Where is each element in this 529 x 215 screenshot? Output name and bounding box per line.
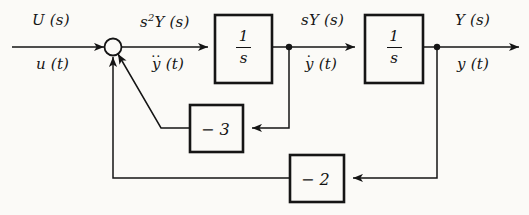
- input-time-label: u (t): [36, 57, 69, 72]
- block-diagram-figure: U (s) u (t) s2Y (s) ··y (t) 1 s sY (s) ·…: [0, 0, 529, 215]
- gain-minus-3-label: − 3: [201, 120, 230, 139]
- integrator-1-numerator: 1: [215, 29, 272, 44]
- integrator-1-transfer-function: 1 s: [215, 29, 272, 66]
- summing-junction: [105, 39, 122, 56]
- integrator-2-transfer-function: 1 s: [365, 29, 423, 66]
- fraction-bar: [387, 47, 402, 48]
- integrator-1-denominator: s: [215, 51, 272, 66]
- acceleration-time-suffix: (t): [161, 55, 184, 73]
- fraction-bar: [236, 47, 251, 48]
- output-laplace-label: Y (s): [455, 13, 490, 28]
- acceleration-overdots: ··: [151, 50, 161, 63]
- velocity-overdot: ·: [307, 50, 312, 63]
- integrator-2-denominator: s: [365, 51, 423, 66]
- velocity-time-label: ·y (t): [305, 57, 337, 72]
- acceleration-laplace-label: s2Y (s): [140, 13, 190, 30]
- acceleration-laplace-prefix: s: [140, 13, 148, 31]
- integrator-2-numerator: 1: [365, 29, 423, 44]
- output-time-label: y (t): [457, 57, 489, 72]
- velocity-laplace-label: sY (s): [301, 13, 344, 28]
- acceleration-laplace-suffix: Y (s): [154, 13, 189, 31]
- gain-minus-2-label: − 2: [301, 170, 330, 189]
- velocity-time-suffix: (t): [314, 55, 337, 73]
- acceleration-time-label: ··y (t): [152, 57, 184, 72]
- input-laplace-label: U (s): [32, 13, 70, 28]
